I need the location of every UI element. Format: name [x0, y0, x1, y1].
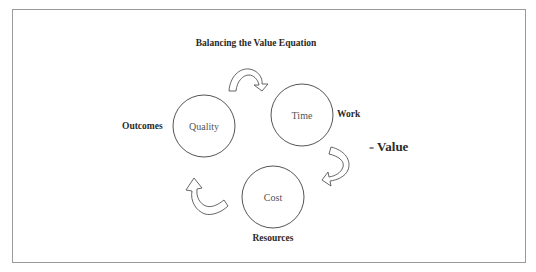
cost-label: Cost	[264, 192, 282, 203]
quality-label: Quality	[189, 121, 219, 132]
work-caption: Work	[337, 109, 360, 119]
resources-caption: Resources	[253, 233, 294, 243]
equals-sign: =	[369, 143, 374, 153]
time-label: Time	[292, 110, 313, 121]
curved-arrow-icon	[322, 147, 349, 186]
diagram-title: Balancing the Value Equation	[0, 38, 524, 48]
outcomes-caption: Outcomes	[122, 121, 163, 131]
curved-arrow-icon	[229, 69, 268, 91]
value-label: Value	[377, 139, 408, 154]
curved-arrow-icon	[186, 178, 228, 215]
value-result: =Value	[369, 139, 408, 155]
